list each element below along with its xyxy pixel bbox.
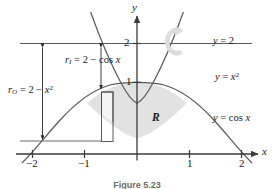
y-tick-label-1: 1	[126, 76, 132, 87]
figure-caption: Figure 5.23	[0, 180, 274, 189]
curve-label-line-y2: y = 2	[213, 36, 234, 47]
outer-radius-label: rO = 2 − x2	[8, 85, 53, 96]
curve-label-parabola: y = x2	[215, 72, 239, 83]
curve-label-cosine: y = cos x	[213, 113, 250, 124]
y-axis-label: y	[132, 2, 137, 13]
x-tick-label-neg1: −1	[78, 158, 90, 169]
y-tick-label-2: 2	[124, 37, 130, 48]
x-tick-label-1: 1	[187, 158, 193, 169]
figure-container: −2 −1 1 2 1 2 y x R y = 2 y = x2 y = cos…	[0, 0, 274, 189]
inner-radius-label: rI = 2 − cos x	[65, 55, 120, 66]
x-tick-label-2: 2	[239, 158, 245, 169]
x-axis-label: x	[262, 146, 267, 157]
x-tick-label-neg2: −2	[26, 158, 38, 169]
region-label-R: R	[152, 112, 160, 124]
rotation-arrow-icon	[167, 27, 183, 53]
